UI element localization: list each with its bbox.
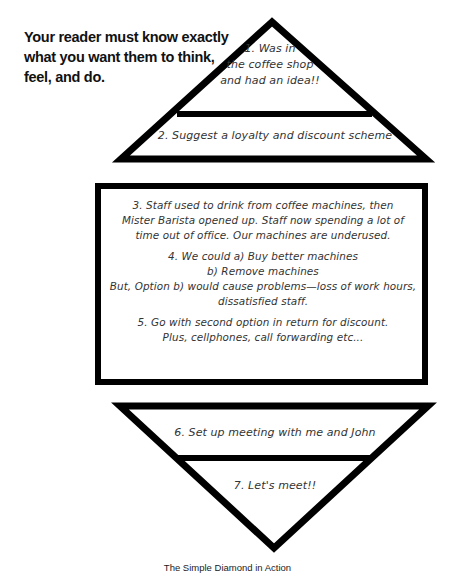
section-1-line: 1. Was in bbox=[195, 41, 345, 57]
section-3-text: 3. Staff used to drink from coffee machi… bbox=[104, 198, 422, 243]
section-6-text: 6. Set up meeting with me and John bbox=[150, 425, 400, 441]
section-1-line: the coffee shop bbox=[195, 57, 345, 73]
section-7-text: 7. Let's meet!! bbox=[200, 478, 350, 494]
section-4-text: 4. We could a) Buy better machines b) Re… bbox=[104, 249, 422, 309]
section-2-text: 2. Suggest a loyalty and discount scheme bbox=[150, 128, 400, 144]
section-5-text: 5. Go with second option in return for d… bbox=[104, 315, 422, 345]
figure-caption: The Simple Diamond in Action bbox=[0, 562, 455, 573]
section-1-line: and had an idea!! bbox=[195, 73, 345, 89]
section-1-text: 1. Was in the coffee shop and had an ide… bbox=[195, 41, 345, 89]
middle-box-text: 3. Staff used to drink from coffee machi… bbox=[104, 198, 422, 351]
